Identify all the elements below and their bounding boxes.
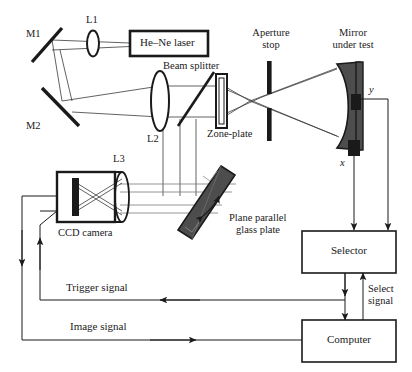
trigger-signal-camera-stub xyxy=(40,211,57,225)
label-select-signal-line1: Select xyxy=(368,283,394,295)
ccd-camera-box xyxy=(57,172,115,222)
lens-l1-glyph xyxy=(87,31,99,57)
label-zone-plate: Zone-plate xyxy=(207,128,252,140)
label-image-signal: Image signal xyxy=(70,321,127,333)
beam-splitter-glyph xyxy=(178,72,214,126)
label-beam-splitter: Beam splitter xyxy=(163,60,219,72)
zone-plate-inner xyxy=(219,78,224,124)
label-mirror-under-test-line1: Mirror xyxy=(314,27,392,39)
lens-l2-glyph xyxy=(151,71,169,131)
label-glass-plate-line2: glass plate xyxy=(236,224,280,236)
label-glass-plate-line1: Plane parallel xyxy=(229,212,286,224)
optical-schematic-svg xyxy=(0,0,412,372)
label-ccd-camera: CCD camera xyxy=(58,227,113,239)
label-selector: Selector xyxy=(302,245,396,257)
label-l3: L3 xyxy=(113,153,125,165)
label-aperture-stop-line2: stop xyxy=(240,39,302,51)
label-l2: L2 xyxy=(147,133,159,145)
label-computer: Computer xyxy=(302,334,396,346)
actuator-y-wire xyxy=(361,99,388,230)
lens-l3-glyph xyxy=(115,172,129,222)
plane-parallel-glass-plate-glyph xyxy=(178,166,235,239)
figure-canvas: M1 M2 L1 L2 L3 He–Ne laser Beam splitter… xyxy=(0,0,412,372)
label-m2: M2 xyxy=(26,120,41,132)
label-he-ne-laser: He–Ne laser xyxy=(140,37,195,49)
label-m1: M1 xyxy=(26,28,41,40)
actuator-x-block xyxy=(348,140,360,156)
label-mirror-under-test-line2: under test xyxy=(314,39,392,51)
aperture-stop-upper-bar xyxy=(267,61,272,94)
aperture-stop-lower-bar xyxy=(267,108,272,141)
label-trigger-signal: Trigger signal xyxy=(66,282,128,294)
label-axis-x: x xyxy=(340,157,345,169)
label-select-signal-line2: signal xyxy=(368,295,393,307)
label-aperture-stop-line1: Aperture xyxy=(240,27,302,39)
label-l1: L1 xyxy=(86,14,98,26)
label-axis-y: y xyxy=(369,84,374,96)
actuator-y-block xyxy=(351,94,361,110)
ccd-sensor-glyph xyxy=(72,178,79,216)
